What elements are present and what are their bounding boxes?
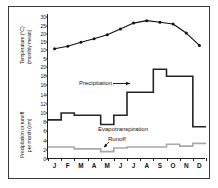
figure-container: Temperature (°C) (monthly mean) 51015202… (0, 0, 218, 188)
runoff-annotation: Runoff (108, 136, 126, 142)
evapotranspiration-annotation: Evapotranspiration (98, 126, 148, 132)
annotation-arrows (0, 0, 218, 188)
